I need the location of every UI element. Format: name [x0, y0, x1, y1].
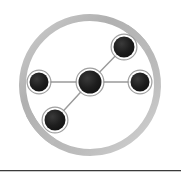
- logo-canvas: [0, 0, 181, 181]
- bottom-left-node: [45, 110, 66, 131]
- node-group: [27, 34, 152, 133]
- left-node: [30, 73, 49, 92]
- bottom-divider: [0, 170, 181, 172]
- top-right-node: [114, 37, 135, 58]
- center-node: [79, 71, 102, 94]
- right-node: [131, 73, 150, 92]
- network-node-logo: [0, 0, 181, 181]
